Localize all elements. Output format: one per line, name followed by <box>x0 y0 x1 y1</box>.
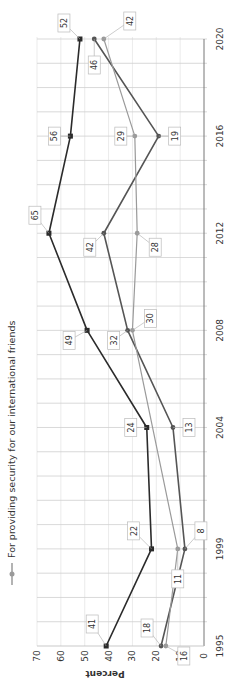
value-tick-label: 30 <box>127 650 137 662</box>
data-label: 16 <box>180 651 189 661</box>
year-tick-label: 1999 <box>215 537 225 560</box>
data-label: 29 <box>117 131 126 141</box>
legend-marker-icon <box>10 572 15 577</box>
data-label: 46 <box>90 60 99 70</box>
value-tick-label: 60 <box>56 650 66 662</box>
data-label: 22 <box>130 526 139 536</box>
y-axis-title: Percent <box>85 669 125 679</box>
data-label: 41 <box>88 619 97 629</box>
value-tick-label: 70 <box>32 650 42 662</box>
legend: For providing security for our internati… <box>6 321 17 585</box>
data-label: 11 <box>174 574 183 584</box>
data-label: 8 <box>197 528 206 533</box>
data-label: 52 <box>60 18 69 28</box>
year-tick-label: 2008 <box>215 319 225 342</box>
data-label: 19 <box>171 131 180 141</box>
data-label: 18 <box>143 623 152 633</box>
data-label: 13 <box>185 422 194 432</box>
data-label: 42 <box>86 242 95 252</box>
line-chart: 1995199920042008201220162020010203040506… <box>0 0 240 685</box>
year-tick-label: 2020 <box>215 27 225 50</box>
value-tick-label: 40 <box>104 650 114 662</box>
legend-label: For providing security for our internati… <box>6 321 17 558</box>
data-label: 65 <box>31 210 40 220</box>
year-tick-label: 1995 <box>215 635 225 658</box>
value-tick-label: 50 <box>80 650 90 662</box>
value-tick-label: 0 <box>199 653 209 659</box>
year-tick-label: 2016 <box>215 124 225 147</box>
value-tick-label: 20 <box>151 650 161 662</box>
data-label: 42 <box>126 16 135 26</box>
data-label: 49 <box>65 335 74 345</box>
data-label: 32 <box>110 335 119 345</box>
year-tick-label: 2004 <box>215 416 225 439</box>
data-label: 56 <box>50 131 59 141</box>
data-label: 28 <box>151 242 160 252</box>
data-label: 24 <box>127 422 136 432</box>
data-label: 30 <box>146 313 155 323</box>
year-tick-label: 2012 <box>215 222 225 245</box>
